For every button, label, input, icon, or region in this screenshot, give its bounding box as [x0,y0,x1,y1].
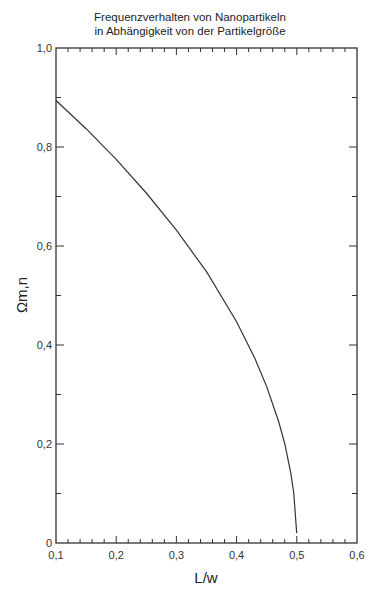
x-tick-label: 0,5 [289,549,304,561]
y-tick-label: 0,4 [37,339,52,351]
y-tick-label: 0,6 [37,240,52,252]
data-line [56,101,297,534]
x-tick-label: 0,2 [109,549,124,561]
y-tick-label: 0,8 [37,141,52,153]
y-tick-label: 0 [46,537,52,549]
plot-frame [56,48,357,543]
x-tick-label: 0,6 [349,549,364,561]
y-axis-label: Ωm,n [13,277,30,313]
y-tick-label: 0,2 [37,438,52,450]
x-axis-label: L/w [194,569,218,586]
x-tick-label: 0,1 [48,549,63,561]
axis-ticks [56,48,357,543]
x-tick-label: 0,4 [229,549,244,561]
y-tick-labels: 00,20,40,60,81,0 [37,42,52,549]
y-tick-label: 1,0 [37,42,52,54]
chart-plot: 0,10,20,30,40,50,6 00,20,40,60,81,0 L/w … [0,0,380,597]
x-tick-label: 0,3 [169,549,184,561]
x-tick-labels: 0,10,20,30,40,50,6 [48,549,364,561]
